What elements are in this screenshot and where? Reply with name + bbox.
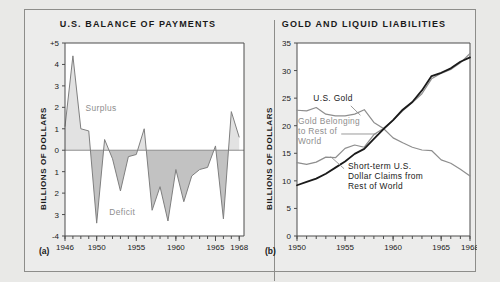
svg-text:1965: 1965 xyxy=(207,243,225,252)
svg-text:4: 4 xyxy=(55,60,60,69)
svg-text:2: 2 xyxy=(55,189,60,198)
svg-text:-4: -4 xyxy=(52,232,60,241)
svg-text:0: 0 xyxy=(55,146,60,155)
svg-text:Short-term U.S.: Short-term U.S. xyxy=(348,161,411,171)
svg-text:30: 30 xyxy=(282,67,291,76)
figure-canvas: U.S. BALANCE OF PAYMENTS BILLIONS OF DOL… xyxy=(0,0,500,282)
svg-text:1968: 1968 xyxy=(461,243,477,252)
panel-a-plot: +543210123-4194619501955196019651968Surp… xyxy=(25,10,251,273)
svg-text:Gold Belonging: Gold Belonging xyxy=(298,116,360,126)
figure-frame: U.S. BALANCE OF PAYMENTS BILLIONS OF DOL… xyxy=(24,9,476,272)
svg-text:Rest of World: Rest of World xyxy=(348,181,403,191)
svg-text:Deficit: Deficit xyxy=(109,207,135,217)
svg-text:1960: 1960 xyxy=(167,243,185,252)
svg-text:20: 20 xyxy=(282,122,291,131)
svg-text:15: 15 xyxy=(282,149,291,158)
panel-b-gold-liabilities: GOLD AND LIQUID LIABILITIES BILLIONS OF … xyxy=(251,10,477,273)
svg-text:to Rest of: to Rest of xyxy=(298,126,338,136)
svg-text:1: 1 xyxy=(55,125,60,134)
svg-text:35: 35 xyxy=(282,39,291,48)
svg-text:1955: 1955 xyxy=(127,243,145,252)
svg-text:2: 2 xyxy=(55,103,60,112)
svg-text:U.S. Gold: U.S. Gold xyxy=(313,93,352,103)
svg-text:10: 10 xyxy=(282,177,291,186)
svg-text:+5: +5 xyxy=(50,39,60,48)
panel-b-plot: 3530252015105019501955196019651968U.S. G… xyxy=(251,10,477,273)
svg-text:25: 25 xyxy=(282,94,291,103)
svg-text:1965: 1965 xyxy=(432,243,450,252)
svg-text:Surplus: Surplus xyxy=(86,103,117,113)
svg-text:1950: 1950 xyxy=(88,243,106,252)
svg-text:Dollar Claims from: Dollar Claims from xyxy=(348,171,423,181)
svg-text:0: 0 xyxy=(287,232,292,241)
svg-text:3: 3 xyxy=(55,82,60,91)
svg-text:1946: 1946 xyxy=(56,243,74,252)
svg-text:1960: 1960 xyxy=(384,243,402,252)
svg-text:1955: 1955 xyxy=(336,243,354,252)
svg-text:3: 3 xyxy=(55,211,60,220)
svg-text:1950: 1950 xyxy=(288,243,306,252)
svg-text:5: 5 xyxy=(287,204,292,213)
svg-text:1968: 1968 xyxy=(230,243,248,252)
svg-text:World: World xyxy=(298,136,321,146)
svg-text:1: 1 xyxy=(55,168,60,177)
panel-a-balance-of-payments: U.S. BALANCE OF PAYMENTS BILLIONS OF DOL… xyxy=(25,10,251,273)
